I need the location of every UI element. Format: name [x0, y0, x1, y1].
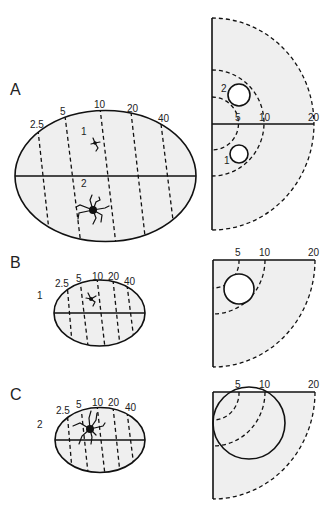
tick-label: 2.5: [30, 119, 44, 130]
tick-label: 5: [76, 273, 82, 284]
tick-label: 20: [308, 379, 320, 390]
tick-label: 40: [124, 276, 136, 287]
tick-label: 10: [259, 247, 271, 258]
panel-label-c: C: [10, 386, 22, 403]
quarter-b: 5 10 20: [213, 247, 320, 367]
cell-label: 2: [81, 178, 87, 189]
panel-c: C 2 2.5 5 10 20 40: [10, 379, 320, 499]
semicircle-a: 5 10 20 2 1: [212, 18, 320, 230]
circle-label: 1: [224, 155, 230, 166]
tick-label: 5: [235, 112, 241, 123]
cell-label: 1: [81, 126, 87, 137]
tick-label: 2.5: [55, 278, 69, 289]
panel-a: A 2.5 5 10 20 40 1: [10, 18, 320, 245]
side-label-c: 2: [37, 419, 43, 430]
panel-label-a: A: [10, 81, 21, 98]
tick-label: 5: [235, 247, 241, 258]
side-label-b: 1: [37, 290, 43, 301]
circle-label: 2: [221, 83, 227, 94]
tick-label: 40: [125, 402, 137, 413]
tick-label: 20: [127, 103, 139, 114]
tick-label: 20: [308, 112, 320, 123]
quarter-c: 5 10 20: [213, 379, 320, 499]
tick-label: 40: [158, 113, 170, 124]
panel-label-b: B: [10, 254, 21, 271]
diagram: A 2.5 5 10 20 40 1: [0, 0, 336, 510]
tick-label: 10: [92, 271, 104, 282]
tick-label: 5: [76, 399, 82, 410]
receptive-field-b: [224, 274, 254, 304]
tick-label: 20: [108, 271, 120, 282]
tick-label: 10: [94, 99, 106, 110]
tick-label: 20: [108, 397, 120, 408]
tick-label: 10: [92, 397, 104, 408]
tick-label: 20: [308, 247, 320, 258]
tick-label: 10: [259, 112, 271, 123]
tick-label: 2.5: [56, 405, 70, 416]
tick-label: 5: [60, 106, 66, 117]
panel-b: B 1 2.5 5 10 20 40: [10, 247, 320, 367]
